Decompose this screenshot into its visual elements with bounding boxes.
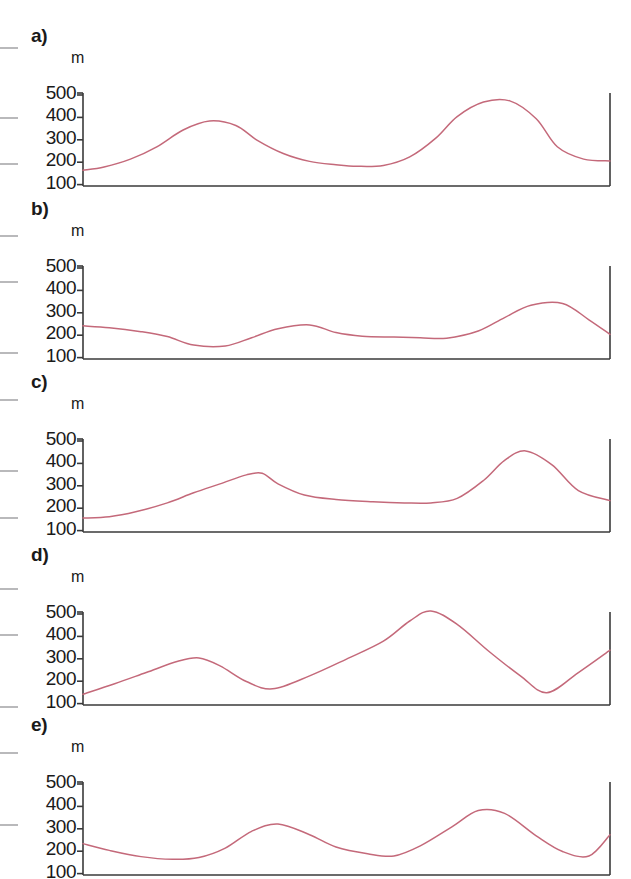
chart-panel-a: a)m500400300200100: [0, 25, 631, 206]
chart-panel-d: d)m500400300200100: [0, 544, 631, 725]
plot-area: [0, 544, 631, 723]
chart-panel-e: e)m500400300200100: [0, 714, 631, 879]
elevation-curve: [83, 99, 610, 170]
elevation-curve: [83, 451, 610, 518]
elevation-curve: [83, 809, 610, 859]
plot-area: [0, 198, 631, 377]
elevation-curve: [83, 302, 610, 346]
elevation-curve: [83, 611, 610, 694]
plot-area: [0, 371, 631, 550]
chart-panel-b: b)m500400300200100: [0, 198, 631, 379]
plot-area: [0, 25, 631, 204]
chart-panel-c: c)m500400300200100: [0, 371, 631, 552]
elevation-profile-figure: a)m500400300200100b)m500400300200100c)m5…: [0, 0, 631, 879]
plot-area: [0, 714, 631, 879]
